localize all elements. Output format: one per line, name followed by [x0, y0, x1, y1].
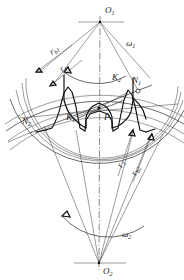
- omega2-arc: [62, 216, 144, 237]
- line-of-action-segment: [30, 85, 152, 133]
- label-omega-upper: ω1: [126, 38, 135, 49]
- lower-radial-lines: [44, 126, 163, 263]
- o2-point-marker: [98, 262, 100, 264]
- diagram-text-labels: O1 O2 ω1 ω2 rb1 r1 r: [21, 5, 142, 277]
- r2-dimension-line: [118, 130, 133, 176]
- label-radius-base-upper: rb1: [47, 43, 61, 58]
- label-radius-base-lower: rb2: [129, 164, 143, 177]
- o1-point-marker: [99, 21, 101, 23]
- gear-meshing-figure: O1 O2 ω1 ω2 rb1 r1 r: [0, 0, 184, 280]
- centre-line-o1-o2: [99, 16, 100, 270]
- label-center-lower: O2: [103, 266, 113, 277]
- marker-points: [97, 21, 140, 264]
- label-omega-lower: ω2: [122, 229, 131, 240]
- label-center-upper: O1: [105, 5, 115, 16]
- o2-radial-left: [44, 126, 99, 263]
- gear-diagram-canvas: O1 O2 ω1 ω2 rb1 r1 r: [0, 0, 184, 280]
- n1-point-marker: [136, 89, 140, 93]
- lower-gear-arcs: [5, 95, 184, 150]
- o2-radial-right-base: [99, 132, 152, 263]
- r1-dimension-line: [50, 60, 82, 86]
- upper-base-arc: [22, 83, 181, 160]
- lower-tooth-root-right: [146, 129, 155, 132]
- o2-radial-mid-left: [76, 130, 99, 263]
- label-point-k1: K1: [65, 112, 75, 123]
- label-point-k2: K2: [111, 72, 121, 83]
- upper-root-arc: [26, 78, 178, 158]
- label-contact-n2: N2: [21, 116, 31, 127]
- pitch-point-marker: [97, 106, 100, 109]
- o2-radial-far-right: [99, 134, 163, 263]
- o1-radial-right-edge: [100, 22, 150, 78]
- omega2-arrowhead: [62, 211, 70, 217]
- label-pitch-point: P: [103, 112, 110, 122]
- label-contact-n1: N1: [131, 75, 141, 86]
- o1-radial-left-pitch: [52, 22, 100, 86]
- o2-radial-right-pitch: [99, 128, 134, 263]
